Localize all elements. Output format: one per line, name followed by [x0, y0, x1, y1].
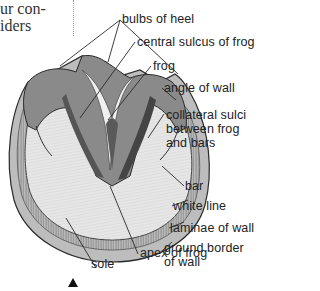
label-bar: bar	[185, 179, 203, 194]
label-collateral-sulci-1: collateral sulci	[166, 108, 246, 123]
label-apex-of-frog: apex of frog	[140, 246, 207, 261]
label-white-line: white line	[173, 199, 226, 214]
label-sole: sole	[91, 257, 114, 272]
label-laminae-of-wall: laminae of wall	[170, 221, 254, 236]
label-collateral-sulci-2: between frog	[166, 122, 239, 137]
label-central-sulcus-of-frog: central sulcus of frog	[137, 35, 255, 50]
label-collateral-sulci-3: and bars	[166, 136, 215, 151]
triangle-marker-icon	[68, 278, 78, 287]
label-bulbs-of-heel: bulbs of heel	[122, 12, 194, 27]
label-frog: frog	[153, 59, 175, 74]
label-angle-of-wall: angle of wall	[164, 81, 235, 96]
